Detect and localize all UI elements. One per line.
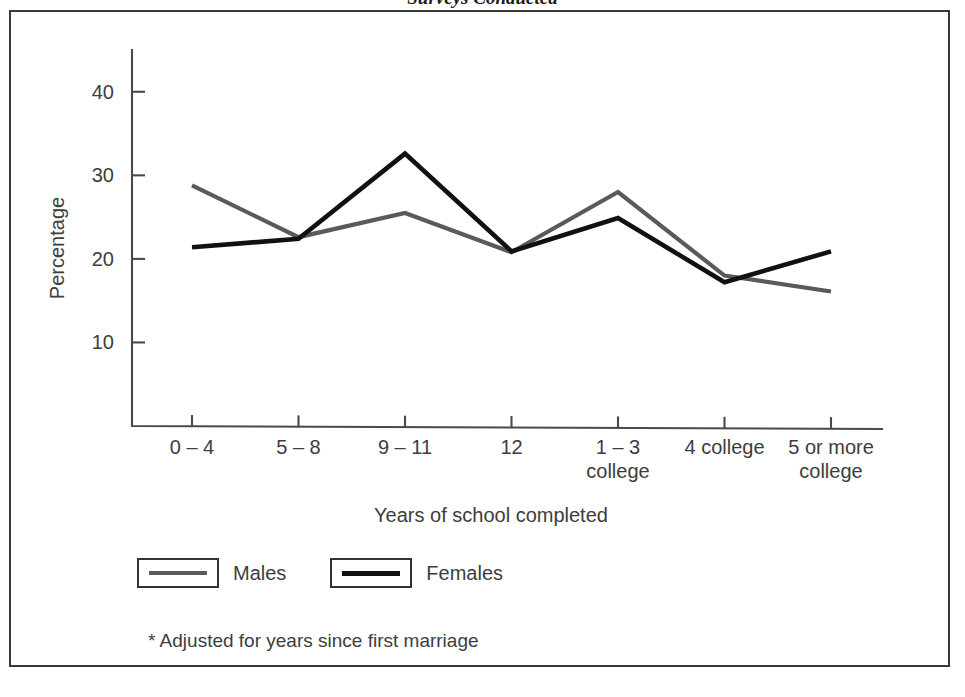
legend-swatch-males bbox=[137, 558, 219, 588]
legend-line-sample-males bbox=[149, 571, 207, 575]
x-category-label-4: 1 – 3 bbox=[596, 436, 640, 458]
chart-axes bbox=[132, 50, 882, 429]
x-category-label-6: 5 or more bbox=[788, 436, 874, 458]
legend-entry-females: Females bbox=[330, 558, 503, 588]
page-running-head: Surveys Conducted bbox=[0, 0, 965, 10]
y-tick-label-40: 40 bbox=[92, 81, 114, 103]
y-axis-title: Percentage bbox=[46, 197, 68, 299]
axis-lines bbox=[132, 50, 882, 429]
x-axis-title: Years of school completed bbox=[374, 504, 608, 526]
legend-label-females: Females bbox=[426, 562, 503, 585]
legend-label-males: Males bbox=[233, 562, 286, 585]
running-head-text: Surveys Conducted bbox=[407, 0, 557, 9]
series-line-females bbox=[192, 154, 831, 283]
chart-legend: Males Females bbox=[137, 558, 503, 588]
figure-frame: 10203040 0 – 45 – 89 – 11121 – 3college4… bbox=[9, 10, 950, 667]
x-category-label-4-line2: college bbox=[586, 460, 649, 482]
legend-entry-males: Males bbox=[137, 558, 286, 588]
x-category-label-6-line2: college bbox=[799, 460, 862, 482]
chart-series-lines bbox=[192, 154, 831, 292]
x-category-label-5: 4 college bbox=[684, 436, 764, 458]
y-tick-label-20: 20 bbox=[92, 248, 114, 270]
x-category-label-0: 0 – 4 bbox=[170, 436, 214, 458]
chart-tick-marks bbox=[132, 92, 831, 429]
x-category-label-3: 12 bbox=[500, 436, 522, 458]
legend-line-sample-females bbox=[342, 571, 400, 576]
x-category-label-2: 9 – 11 bbox=[378, 436, 432, 458]
legend-swatch-females bbox=[330, 558, 412, 588]
figure-footnote: * Adjusted for years since first marriag… bbox=[148, 630, 479, 652]
x-category-label-1: 5 – 8 bbox=[276, 436, 320, 458]
x-axis-category-labels: 0 – 45 – 89 – 11121 – 3college4 college5… bbox=[170, 436, 874, 482]
y-tick-label-10: 10 bbox=[92, 331, 114, 353]
y-tick-label-30: 30 bbox=[92, 164, 114, 186]
y-axis-tick-labels: 10203040 bbox=[92, 81, 114, 354]
